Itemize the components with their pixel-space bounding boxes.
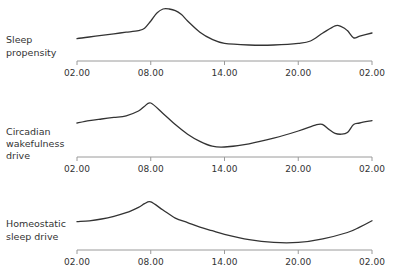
panel-label-line: drive bbox=[6, 150, 30, 161]
tick-label: 14.00 bbox=[212, 164, 238, 174]
tick-label: 14.00 bbox=[212, 257, 238, 267]
homeostatic-sleep-drive-curve bbox=[77, 202, 372, 243]
panel-circadian-wakefulness-drive: Circadian wakefulness drive 02.0008.0014… bbox=[6, 103, 385, 174]
tick-label: 02.00 bbox=[359, 257, 385, 267]
x-axis: 02.0008.0014.0020.0002.00 bbox=[64, 250, 385, 267]
x-axis: 02.0008.0014.0020.0002.00 bbox=[64, 61, 385, 78]
tick-label: 08.00 bbox=[138, 164, 164, 174]
panel-label-line: propensity bbox=[6, 47, 57, 58]
sleep-propensity-curve bbox=[77, 9, 372, 46]
panel-label-line: Circadian bbox=[6, 126, 51, 137]
tick-label: 14.00 bbox=[212, 68, 238, 78]
tick-label: 08.00 bbox=[138, 257, 164, 267]
panel-homeostatic-sleep-drive: Homeostatic sleep drive 02.0008.0014.002… bbox=[6, 202, 385, 267]
panel-sleep-propensity: Sleep propensity 02.0008.0014.0020.0002.… bbox=[6, 9, 385, 78]
tick-label: 08.00 bbox=[138, 68, 164, 78]
panel-label-line: Sleep bbox=[6, 34, 32, 45]
tick-label: 02.00 bbox=[359, 68, 385, 78]
tick-label: 02.00 bbox=[64, 68, 90, 78]
tick-label: 02.00 bbox=[64, 257, 90, 267]
panel-label-line: sleep drive bbox=[6, 231, 59, 242]
tick-label: 02.00 bbox=[64, 164, 90, 174]
panel-label-line: wakefulness bbox=[6, 138, 64, 149]
tick-label: 20.00 bbox=[285, 257, 311, 267]
tick-label: 20.00 bbox=[285, 164, 311, 174]
panel-label-line: Homeostatic bbox=[6, 218, 66, 229]
circadian-wakefulness-curve bbox=[77, 103, 372, 147]
tick-label: 02.00 bbox=[359, 164, 385, 174]
x-axis: 02.0008.0014.0020.0002.00 bbox=[64, 157, 385, 174]
tick-label: 20.00 bbox=[285, 68, 311, 78]
chart-canvas: Sleep propensity 02.0008.0014.0020.0002.… bbox=[0, 0, 404, 279]
